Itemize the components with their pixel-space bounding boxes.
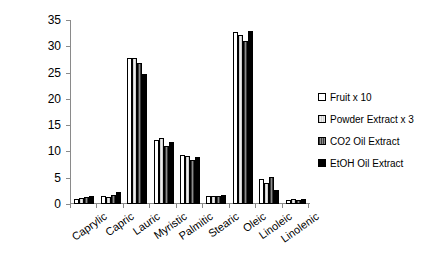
legend-swatch-icon xyxy=(318,137,326,145)
x-axis-tick-mark xyxy=(282,204,283,208)
legend-label: EtOH Oil Extract xyxy=(330,158,403,169)
y-axis-tick-mark xyxy=(66,20,70,21)
y-axis-tick-mark xyxy=(66,46,70,47)
bar xyxy=(195,157,200,204)
y-axis-tick-label: 25 xyxy=(48,66,61,80)
y-axis-tick-label: 35 xyxy=(48,13,61,27)
x-axis-tick-mark xyxy=(308,204,309,208)
bar-chart: Content % 05101520253035 CaprylicCapricL… xyxy=(0,0,430,277)
bar xyxy=(274,190,279,204)
x-axis-tick-mark xyxy=(229,204,230,208)
bar xyxy=(116,192,121,204)
bar xyxy=(89,196,94,204)
legend-item: Fruit x 10 xyxy=(318,86,414,108)
y-axis-tick-label: 30 xyxy=(48,39,61,53)
legend-swatch-icon xyxy=(318,93,326,101)
bar xyxy=(169,142,174,204)
y-axis-tick-label: 5 xyxy=(54,171,61,185)
legend-label: Fruit x 10 xyxy=(330,92,372,103)
y-axis-tick-mark xyxy=(66,73,70,74)
y-axis-tick-label: 10 xyxy=(48,144,61,158)
plot-area xyxy=(70,20,308,204)
legend-item: EtOH Oil Extract xyxy=(318,152,414,174)
legend-item: CO2 Oil Extract xyxy=(318,130,414,152)
x-axis-tick-mark xyxy=(149,204,150,208)
x-axis-tick-mark xyxy=(176,204,177,208)
y-axis-tick-mark xyxy=(66,99,70,100)
x-axis-tick-mark xyxy=(123,204,124,208)
y-axis-tick-label: 0 xyxy=(54,197,61,211)
bar xyxy=(221,195,226,204)
x-axis-tick-mark xyxy=(255,204,256,208)
y-axis-tick-mark xyxy=(66,151,70,152)
bar xyxy=(301,199,306,204)
bar xyxy=(248,31,253,204)
y-axis-tick-mark xyxy=(66,178,70,179)
y-axis-tick-label: 20 xyxy=(48,92,61,106)
bar xyxy=(142,74,147,204)
y-axis-tick-label: 15 xyxy=(48,118,61,132)
legend-swatch-icon xyxy=(318,159,326,167)
legend-label: CO2 Oil Extract xyxy=(330,136,399,147)
legend-item: Powder Extract x 3 xyxy=(318,108,414,130)
x-axis-tick-mark xyxy=(70,204,71,208)
legend-label: Powder Extract x 3 xyxy=(330,114,414,125)
legend-swatch-icon xyxy=(318,115,326,123)
y-axis-tick-mark xyxy=(66,125,70,126)
legend: Fruit x 10Powder Extract x 3CO2 Oil Extr… xyxy=(318,86,414,174)
x-axis-tick-mark xyxy=(202,204,203,208)
x-axis-tick-mark xyxy=(96,204,97,208)
